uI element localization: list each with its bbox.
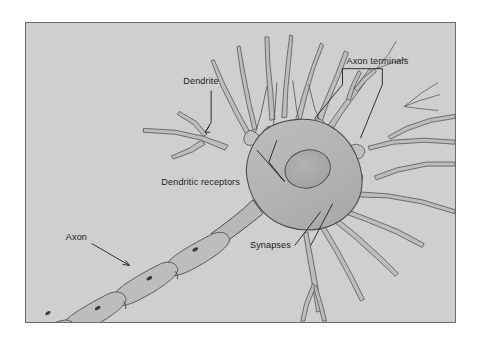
leader-dendrite — [205, 91, 211, 133]
label-synapses: Synapses — [250, 240, 291, 250]
myelinated-axon — [30, 232, 230, 322]
lower-dendrite-1 — [340, 208, 425, 248]
schwann-nucleus-4 — [45, 310, 52, 316]
dendrite-left-main — [143, 128, 228, 150]
dendrite-center-3 — [296, 43, 324, 121]
label-axon: Axon — [66, 232, 87, 242]
incoming-fiber-1 — [368, 138, 455, 150]
leader-dendrite-arrow — [205, 126, 210, 132]
neuron-diagram-svg: Dendrite Axon terminals Dendritic recept… — [26, 23, 455, 322]
dendrite-upright-1 — [315, 51, 349, 126]
twig-2 — [404, 95, 440, 107]
figure-page: Dendrite Axon terminals Dendritic recept… — [0, 0, 479, 344]
receptor-stalk-1 — [255, 87, 267, 135]
label-dendritic-receptors: Dendritic receptors — [161, 177, 240, 187]
incoming-fiber-2 — [374, 162, 455, 180]
label-dendrite: Dendrite — [183, 76, 218, 86]
myelin-segments — [30, 232, 230, 322]
neuron-diagram-frame: Dendrite Axon terminals Dendritic recept… — [25, 22, 456, 323]
twig-1 — [404, 83, 438, 107]
terminal-twigs — [376, 41, 440, 111]
twig-3 — [404, 106, 438, 110]
bottom-dendrite-fork — [301, 283, 316, 321]
lower-right-long-fiber — [357, 192, 455, 214]
leader-axon-terminals-right — [360, 85, 382, 139]
myelin-segment-4 — [30, 320, 74, 322]
leader-axon — [92, 244, 130, 266]
dendrite-center-1 — [265, 37, 275, 120]
myelin-segment-3 — [62, 292, 126, 322]
dendrite-left-lower-branch — [171, 140, 205, 159]
label-axon-terminals: Axon terminals — [347, 56, 409, 66]
incoming-fiber-3 — [388, 114, 455, 139]
dendrite-center-2 — [282, 35, 293, 117]
